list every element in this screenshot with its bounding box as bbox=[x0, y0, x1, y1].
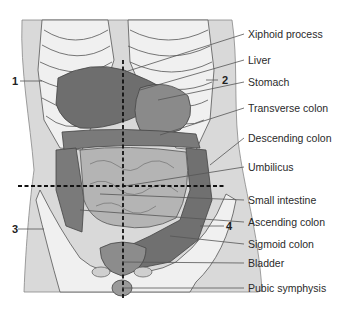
label-stomach: Stomach bbox=[248, 76, 289, 88]
label-sigmoid-colon: Sigmoid colon bbox=[248, 238, 314, 250]
label-pubic-symphysis: Pubic symphysis bbox=[248, 282, 326, 294]
abdomen-diagram bbox=[0, 0, 350, 312]
quadrant-2-label: 2 bbox=[222, 74, 228, 86]
label-small-intestine: Small intestine bbox=[248, 194, 316, 206]
quadrant-4-label: 4 bbox=[226, 220, 232, 232]
quadrant-3-label: 3 bbox=[12, 223, 18, 235]
quadrant-1-label: 1 bbox=[12, 75, 18, 87]
label-descending-colon: Descending colon bbox=[248, 132, 331, 144]
label-liver: Liver bbox=[248, 54, 271, 66]
label-bladder: Bladder bbox=[248, 257, 284, 269]
label-umbilicus: Umbilicus bbox=[248, 161, 294, 173]
label-ascending-colon: Ascending colon bbox=[248, 216, 325, 228]
stomach-shape bbox=[135, 84, 191, 134]
label-transverse-colon: Transverse colon bbox=[248, 102, 328, 114]
label-xiphoid-process: Xiphoid process bbox=[248, 28, 323, 40]
